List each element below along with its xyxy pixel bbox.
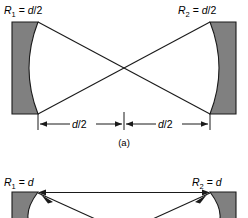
resonator-figure: R1 = d/2 R2 = d/2 d/2 d/2 (a) xyxy=(0,0,248,218)
panel-a-dimension-label-right: d/2 xyxy=(158,118,173,130)
panel-a-caption: (a) xyxy=(118,137,130,148)
panel-a-dimension-label-left: d/2 xyxy=(72,118,87,130)
